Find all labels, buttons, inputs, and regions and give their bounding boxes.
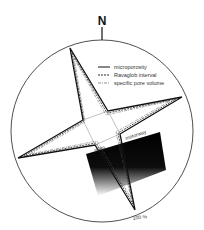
legend-label-ravaglob: Ravaglob interval bbox=[114, 72, 157, 78]
rose-diagram: N microporosity Ravaglob interval specif… bbox=[0, 0, 204, 230]
scale-label: 100 % bbox=[132, 213, 147, 221]
legend: microporosity Ravaglob interval specific… bbox=[98, 64, 164, 86]
north-label: N bbox=[98, 14, 107, 28]
inner-square bbox=[83, 111, 120, 145]
legend-label-pore-volume: specific pore volume bbox=[114, 80, 164, 86]
legend-label-microporosity: microporosity bbox=[114, 64, 147, 70]
north-arrow: N bbox=[98, 14, 107, 40]
